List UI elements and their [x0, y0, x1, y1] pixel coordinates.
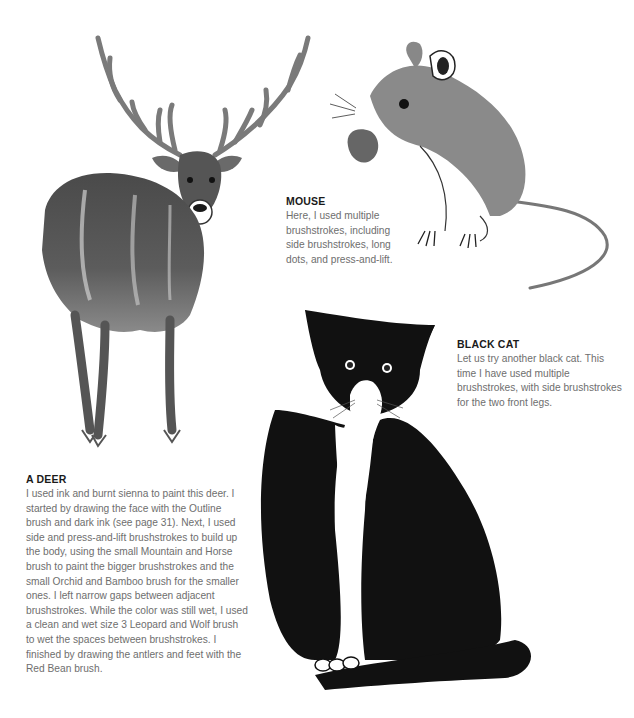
cat-paws [315, 657, 359, 671]
caption-deer: A DEER I used ink and burnt sienna to pa… [26, 473, 248, 677]
book-page: MOUSE Here, I used multiple brushstrokes… [0, 0, 634, 718]
caption-mouse: MOUSE Here, I used multiple brushstrokes… [286, 195, 406, 267]
caption-mouse-body: Here, I used multiple brushstrokes, incl… [286, 209, 406, 267]
caption-cat-body: Let us try another black cat. This time … [457, 352, 622, 410]
caption-cat-title: BLACK CAT [457, 338, 622, 351]
deer-antlers [98, 38, 308, 155]
caption-deer-title: A DEER [26, 473, 248, 486]
caption-deer-body: I used ink and burnt sienna to paint thi… [26, 487, 248, 677]
caption-cat: BLACK CAT Let us try another black cat. … [457, 338, 622, 410]
deer-legs [75, 315, 172, 435]
caption-mouse-title: MOUSE [286, 195, 406, 208]
